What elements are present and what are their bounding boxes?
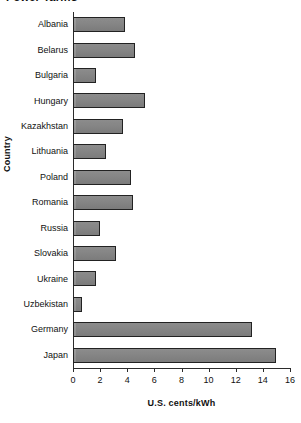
category-label: Russia bbox=[2, 223, 68, 233]
x-tick-label: 8 bbox=[179, 375, 184, 385]
bar bbox=[73, 322, 252, 337]
plot-area: 0246810121416 bbox=[73, 12, 290, 368]
bar bbox=[73, 119, 123, 134]
bar-row bbox=[73, 63, 290, 88]
category-label: Poland bbox=[2, 172, 68, 182]
x-axis-title: U.S. cents/kWh bbox=[73, 398, 290, 408]
x-tick-mark bbox=[73, 368, 74, 372]
bar bbox=[73, 246, 116, 261]
bar-row bbox=[73, 241, 290, 266]
category-label: Uzbekistan bbox=[2, 299, 68, 309]
category-label: Hungary bbox=[2, 96, 68, 106]
x-tick-mark bbox=[182, 368, 183, 372]
bar-row bbox=[73, 266, 290, 291]
bar bbox=[73, 144, 106, 159]
x-tick-label: 2 bbox=[98, 375, 103, 385]
category-label: Bulgaria bbox=[2, 70, 68, 80]
bar-chart: Power Tariffs 0246810121416 AlbaniaBelar… bbox=[0, 0, 301, 423]
bar bbox=[73, 17, 125, 32]
bar-row bbox=[73, 343, 290, 368]
x-tick-mark bbox=[263, 368, 264, 372]
bar-row bbox=[73, 139, 290, 164]
x-tick-label: 6 bbox=[152, 375, 157, 385]
bar bbox=[73, 68, 96, 83]
bar bbox=[73, 170, 131, 185]
x-tick-mark bbox=[209, 368, 210, 372]
x-tick-label: 4 bbox=[125, 375, 130, 385]
bar bbox=[73, 43, 135, 58]
x-tick-label: 10 bbox=[204, 375, 214, 385]
bar bbox=[73, 348, 276, 363]
category-label: Romania bbox=[2, 197, 68, 207]
x-tick-mark bbox=[154, 368, 155, 372]
category-label: Slovakia bbox=[2, 248, 68, 258]
bar-row bbox=[73, 114, 290, 139]
bar bbox=[73, 93, 145, 108]
x-tick-label: 12 bbox=[231, 375, 241, 385]
bar-row bbox=[73, 88, 290, 113]
category-label: Albania bbox=[2, 19, 68, 29]
bar bbox=[73, 221, 100, 236]
bar-row bbox=[73, 190, 290, 215]
category-label: Germany bbox=[2, 324, 68, 334]
category-label: Belarus bbox=[2, 45, 68, 55]
x-tick-label: 16 bbox=[285, 375, 295, 385]
x-tick-label: 14 bbox=[258, 375, 268, 385]
bar-row bbox=[73, 317, 290, 342]
bar-row bbox=[73, 215, 290, 240]
x-tick-mark bbox=[127, 368, 128, 372]
x-tick-mark bbox=[236, 368, 237, 372]
category-label: Ukraine bbox=[2, 274, 68, 284]
x-tick-label: 0 bbox=[70, 375, 75, 385]
x-tick-mark bbox=[290, 368, 291, 372]
bar bbox=[73, 297, 82, 312]
chart-title: Power Tariffs bbox=[6, 0, 77, 3]
bar bbox=[73, 271, 96, 286]
bar-row bbox=[73, 165, 290, 190]
bar-row bbox=[73, 37, 290, 62]
category-label: Kazakhstan bbox=[2, 121, 68, 131]
y-axis-title: Country bbox=[2, 136, 12, 172]
category-label: Japan bbox=[2, 350, 68, 360]
bar-row bbox=[73, 292, 290, 317]
bar-row bbox=[73, 12, 290, 37]
bar bbox=[73, 195, 133, 210]
x-tick-mark bbox=[100, 368, 101, 372]
